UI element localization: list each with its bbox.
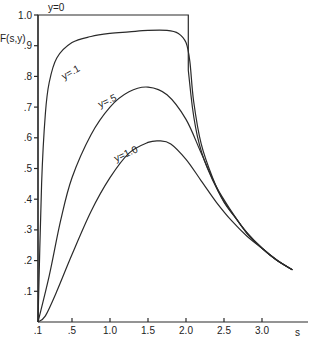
x-tick-label: 2.0 bbox=[179, 325, 193, 336]
y-tick-label: 1.0 bbox=[18, 10, 32, 21]
y-tick-label: .3 bbox=[24, 224, 33, 235]
series-label-y05: y=.5 bbox=[96, 92, 118, 110]
y-tick-label: .6 bbox=[24, 132, 33, 143]
series-label-y01: y=.1 bbox=[60, 62, 82, 81]
x-tick-label: 1.5 bbox=[141, 325, 155, 336]
curve-y-0 bbox=[38, 15, 292, 322]
y-tick-label: .4 bbox=[24, 194, 33, 205]
y-tick-label: .8 bbox=[24, 71, 33, 82]
y-tick-label: .5 bbox=[24, 163, 33, 174]
x-axis-label: s bbox=[295, 327, 300, 338]
line-chart: .1.51.01.52.02.53.0.1.2.3.4.5.6.7.8.91.0… bbox=[0, 0, 314, 339]
axis-ticks: .1.51.01.52.02.53.0.1.2.3.4.5.6.7.8.91.0 bbox=[18, 10, 269, 337]
y-tick-label: .7 bbox=[24, 102, 33, 113]
axes bbox=[38, 15, 308, 322]
y-tick-label: .2 bbox=[24, 255, 33, 266]
y-axis-label: F(s,y) bbox=[0, 33, 26, 44]
y-tick-label: .1 bbox=[24, 286, 33, 297]
x-tick-label: 1.0 bbox=[103, 325, 117, 336]
curves bbox=[38, 15, 292, 322]
x-tick-label: .1 bbox=[34, 325, 43, 336]
series-label-y10: y=1.0 bbox=[112, 143, 139, 164]
series-label-y0: y=0 bbox=[48, 2, 65, 13]
x-tick-label: .5 bbox=[68, 325, 77, 336]
x-tick-label: 2.5 bbox=[217, 325, 231, 336]
x-tick-label: 3.0 bbox=[255, 325, 269, 336]
curve-y-5 bbox=[38, 87, 292, 322]
